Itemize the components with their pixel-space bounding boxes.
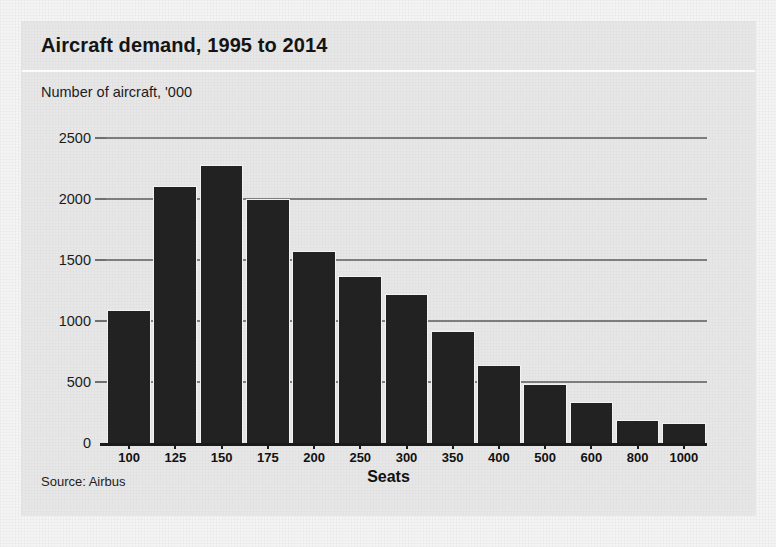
y-axis-tick-label: 2000 bbox=[59, 191, 91, 207]
bar bbox=[662, 423, 706, 443]
bar bbox=[431, 331, 475, 443]
y-axis-tick-label: 0 bbox=[83, 435, 91, 451]
bar bbox=[338, 276, 382, 443]
y-axis-tick-mark bbox=[95, 320, 106, 322]
bar bbox=[107, 310, 151, 443]
x-axis-tick-label: 600 bbox=[581, 450, 603, 465]
x-axis-tick-mark bbox=[359, 443, 361, 449]
x-axis-tick-mark bbox=[452, 443, 454, 449]
bar bbox=[200, 165, 244, 443]
x-axis-baseline bbox=[100, 443, 707, 446]
x-axis-tick-mark bbox=[174, 443, 176, 449]
chart-card: Aircraft demand, 1995 to 2014 Number of … bbox=[22, 22, 755, 515]
bar bbox=[477, 365, 521, 443]
x-axis-tick-label: 1000 bbox=[669, 450, 698, 465]
x-axis-tick-mark bbox=[590, 443, 592, 449]
x-axis-tick-label: 300 bbox=[396, 450, 418, 465]
bar bbox=[523, 384, 567, 443]
x-axis-tick-label: 350 bbox=[442, 450, 464, 465]
x-axis-tick-label: 400 bbox=[488, 450, 510, 465]
y-axis-tick-mark bbox=[95, 381, 106, 383]
bar bbox=[292, 251, 336, 443]
y-axis-tick-label: 1000 bbox=[59, 313, 91, 329]
bar-chart-plot: 05001000150020002500 1001251501752002503… bbox=[22, 22, 755, 515]
x-axis-tick-mark bbox=[406, 443, 408, 449]
x-axis-tick-mark bbox=[544, 443, 546, 449]
source-note: Source: Airbus bbox=[41, 474, 126, 489]
y-axis-tick-label: 2500 bbox=[59, 130, 91, 146]
x-axis-tick-label: 125 bbox=[164, 450, 186, 465]
x-axis-tick-mark bbox=[683, 443, 685, 449]
x-axis-tick-label: 250 bbox=[349, 450, 371, 465]
x-axis-tick-mark bbox=[313, 443, 315, 449]
bar bbox=[616, 420, 660, 443]
y-axis-tick-label: 1500 bbox=[59, 252, 91, 268]
bar bbox=[385, 294, 429, 443]
x-axis-tick-mark bbox=[128, 443, 130, 449]
y-axis-tick-mark bbox=[95, 137, 106, 139]
y-axis-tick-mark bbox=[95, 259, 106, 261]
x-axis-tick-mark bbox=[498, 443, 500, 449]
y-axis-tick-mark bbox=[95, 198, 106, 200]
bar bbox=[246, 199, 290, 443]
x-axis-tick-label: 175 bbox=[257, 450, 279, 465]
x-axis-tick-label: 150 bbox=[211, 450, 233, 465]
x-axis-tick-label: 100 bbox=[118, 450, 140, 465]
x-axis-tick-label: 200 bbox=[303, 450, 325, 465]
x-axis-tick-mark bbox=[267, 443, 269, 449]
bar-series bbox=[106, 138, 707, 443]
x-axis-tick-mark bbox=[221, 443, 223, 449]
x-axis-tick-mark bbox=[637, 443, 639, 449]
x-axis-title: Seats bbox=[22, 468, 755, 486]
y-axis-tick-label: 500 bbox=[67, 374, 91, 390]
x-axis-tick-label: 800 bbox=[627, 450, 649, 465]
bar bbox=[570, 402, 614, 443]
x-axis-tick-label: 500 bbox=[534, 450, 556, 465]
bar bbox=[153, 186, 197, 443]
